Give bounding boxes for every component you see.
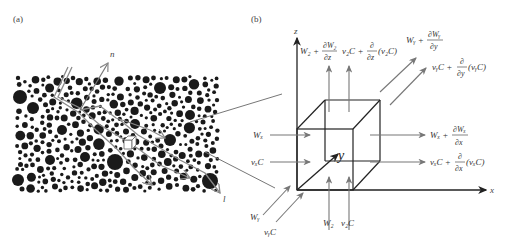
particle bbox=[212, 103, 215, 106]
particle bbox=[173, 127, 176, 130]
particle bbox=[80, 171, 84, 175]
particle bbox=[151, 76, 156, 81]
particle bbox=[151, 98, 155, 102]
particle bbox=[109, 171, 112, 174]
particle bbox=[195, 142, 199, 146]
particle bbox=[78, 162, 83, 167]
particle bbox=[198, 114, 201, 117]
particle bbox=[123, 187, 129, 193]
particle bbox=[160, 77, 163, 80]
particle bbox=[15, 116, 19, 120]
particle bbox=[203, 77, 207, 81]
particle bbox=[110, 139, 113, 142]
x-c-den: ∂x bbox=[455, 164, 463, 173]
particle bbox=[99, 151, 105, 157]
particle bbox=[193, 158, 197, 162]
particle bbox=[149, 111, 152, 114]
particle bbox=[78, 176, 81, 179]
particle bbox=[72, 121, 79, 128]
particle bbox=[154, 82, 166, 94]
particle bbox=[134, 86, 140, 92]
y-c-base: vᵧC + bbox=[432, 62, 452, 72]
panel-label-b: (b) bbox=[251, 14, 262, 24]
particle bbox=[58, 189, 62, 193]
particle bbox=[30, 163, 35, 168]
particle bbox=[12, 174, 24, 186]
particle bbox=[172, 164, 175, 167]
particle bbox=[85, 145, 90, 150]
y-w-num: ∂Wᵧ bbox=[428, 30, 441, 39]
particle bbox=[174, 150, 179, 155]
particle bbox=[27, 102, 39, 114]
particle bbox=[24, 164, 28, 168]
particle bbox=[115, 139, 119, 143]
particle bbox=[175, 183, 179, 187]
particle bbox=[178, 123, 182, 127]
particle bbox=[93, 138, 105, 150]
particle bbox=[41, 140, 45, 144]
particle bbox=[16, 108, 22, 114]
particle bbox=[114, 122, 119, 127]
particle bbox=[21, 168, 24, 171]
particle bbox=[111, 93, 114, 96]
particle bbox=[38, 176, 41, 179]
particle bbox=[57, 179, 60, 182]
particle bbox=[77, 130, 84, 137]
particle bbox=[215, 77, 219, 81]
particle bbox=[167, 106, 171, 110]
particle bbox=[41, 84, 44, 87]
particle bbox=[158, 112, 162, 116]
particle bbox=[63, 167, 67, 171]
particle bbox=[100, 84, 105, 89]
particle bbox=[28, 158, 32, 162]
z-outflow-labels: W₂ + ∂W₂ ∂z v₂C + ∂ ∂z (v₂C) bbox=[300, 41, 397, 62]
particle bbox=[47, 114, 53, 120]
y-outflow-labels: Wᵧ + ∂Wᵧ ∂y vᵧC + ∂ ∂y (vᵧC) bbox=[406, 30, 486, 78]
y-axis bbox=[297, 154, 338, 190]
particle bbox=[108, 184, 112, 188]
particle bbox=[215, 170, 219, 174]
particle bbox=[120, 179, 126, 185]
particle bbox=[85, 182, 90, 187]
particle bbox=[90, 177, 94, 181]
particle bbox=[112, 86, 117, 91]
particle bbox=[23, 153, 27, 157]
particle bbox=[188, 75, 191, 78]
particle bbox=[201, 120, 206, 125]
particle bbox=[212, 165, 216, 169]
particle bbox=[18, 150, 22, 154]
particle bbox=[42, 174, 45, 177]
particle bbox=[62, 181, 65, 184]
particle bbox=[128, 93, 131, 96]
particle bbox=[198, 127, 202, 131]
particle bbox=[180, 100, 183, 103]
particle bbox=[52, 166, 56, 170]
particle bbox=[114, 172, 120, 178]
x-outflow-labels: Wₓ + ∂Wₓ ∂x vₓC + ∂ ∂x (vₓC) bbox=[430, 125, 485, 173]
particle bbox=[152, 123, 155, 126]
particle bbox=[209, 158, 213, 162]
particle bbox=[182, 105, 185, 108]
particle bbox=[47, 149, 52, 154]
diagram-canvas: (a) (b) n l z x y bbox=[0, 0, 505, 247]
particle bbox=[73, 157, 78, 162]
particle bbox=[99, 97, 104, 102]
particle bbox=[114, 76, 123, 85]
particle bbox=[32, 76, 40, 84]
particle bbox=[162, 168, 168, 174]
particle bbox=[107, 93, 110, 96]
particle bbox=[128, 75, 133, 80]
n-axis-label: n bbox=[110, 49, 115, 59]
particle bbox=[49, 99, 56, 106]
particle bbox=[136, 156, 139, 159]
particle bbox=[15, 144, 19, 148]
particle bbox=[197, 97, 204, 104]
particle bbox=[115, 110, 121, 116]
particle bbox=[148, 135, 152, 139]
particle bbox=[131, 174, 138, 181]
particle bbox=[181, 119, 184, 122]
particle bbox=[141, 165, 144, 168]
particle bbox=[151, 115, 158, 122]
particle bbox=[185, 169, 188, 172]
particle bbox=[96, 159, 99, 162]
